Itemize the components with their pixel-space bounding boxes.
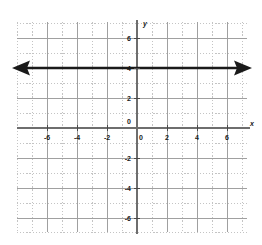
x-tick-label-0: 0 xyxy=(139,134,143,141)
y-tick-label-4: 4 xyxy=(127,65,131,72)
chart-background xyxy=(0,0,262,245)
coordinate-graph: 6 4 2 0 -2 -4 -6 -6 -4 -2 0 2 4 6 y x xyxy=(0,0,262,245)
x-tick-label-minus-4: -4 xyxy=(74,134,80,141)
x-tick-label-6: 6 xyxy=(225,134,229,141)
x-tick-label-minus-2: -2 xyxy=(104,134,110,141)
y-tick-label-0: 0 xyxy=(127,118,131,125)
y-tick-label-minus-4: -4 xyxy=(125,185,131,192)
x-tick-label-2: 2 xyxy=(165,134,169,141)
x-tick-label-minus-6: -6 xyxy=(44,134,50,141)
y-tick-label-minus-6: -6 xyxy=(125,215,131,222)
y-tick-label-6: 6 xyxy=(127,35,131,42)
y-tick-label-minus-2: -2 xyxy=(125,155,131,162)
x-tick-label-4: 4 xyxy=(195,134,199,141)
coordinate-plane-svg: 6 4 2 0 -2 -4 -6 -6 -4 -2 0 2 4 6 y x xyxy=(0,0,262,245)
y-tick-label-2: 2 xyxy=(127,95,131,102)
